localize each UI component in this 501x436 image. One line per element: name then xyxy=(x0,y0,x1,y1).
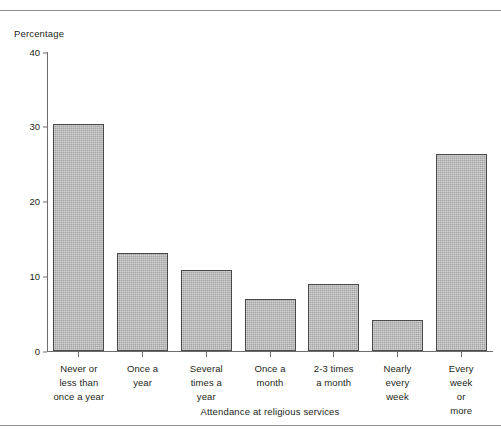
bar-slot xyxy=(47,52,111,351)
y-axis-tick-label: 0 xyxy=(35,346,40,356)
bar-slot xyxy=(238,52,302,351)
bar-slot xyxy=(174,52,238,351)
y-axis-tick: 30 xyxy=(7,126,47,127)
x-axis-tick-mark xyxy=(142,352,143,357)
x-axis-tick-mark xyxy=(78,352,79,357)
x-axis-title: Attendance at religious services xyxy=(47,406,493,417)
bottom-divider-rule xyxy=(0,425,501,426)
bar[interactable] xyxy=(117,253,168,351)
x-axis-tick xyxy=(429,352,493,357)
y-axis-tick: 20 xyxy=(7,201,47,202)
y-axis-tick-label: 10 xyxy=(29,272,40,282)
bar[interactable] xyxy=(53,124,104,351)
bar[interactable] xyxy=(372,320,423,351)
bar-chart-figure: Percentage 010203040 Never or less than … xyxy=(0,10,501,425)
y-axis-tick-mark xyxy=(43,127,47,128)
x-axis-tick xyxy=(111,352,175,357)
y-axis-tick: 10 xyxy=(7,276,47,277)
bar-slot xyxy=(302,52,366,351)
bar[interactable] xyxy=(245,299,296,351)
y-axis-tick-label: 40 xyxy=(29,47,40,57)
x-axis-tick-mark xyxy=(461,352,462,357)
y-axis-tick-label: 30 xyxy=(29,122,40,132)
bar-slot xyxy=(366,52,430,351)
x-axis-tick xyxy=(302,352,366,357)
x-axis-tick xyxy=(174,352,238,357)
x-axis-tick-mark xyxy=(333,352,334,357)
x-axis-tick xyxy=(366,352,430,357)
bar-slot xyxy=(429,52,493,351)
plot-area: 010203040 xyxy=(47,52,493,351)
x-axis-ticks xyxy=(47,352,493,357)
clipped-header-text xyxy=(0,0,501,3)
bar[interactable] xyxy=(181,270,232,351)
bar[interactable] xyxy=(308,284,359,351)
y-axis-tick-mark xyxy=(43,276,47,277)
x-axis-tick-mark xyxy=(270,352,271,357)
bar-slot xyxy=(111,52,175,351)
y-axis-title: Percentage xyxy=(14,28,64,39)
y-axis-tick: 40 xyxy=(7,52,47,53)
y-axis-tick-mark xyxy=(43,52,47,53)
x-axis-tick-mark xyxy=(206,352,207,357)
y-axis-tick-mark xyxy=(43,202,47,203)
y-axis-tick-label: 20 xyxy=(29,197,40,207)
bar[interactable] xyxy=(436,154,487,351)
x-axis-tick-mark xyxy=(397,352,398,357)
y-axis-tick: 0 xyxy=(7,351,47,352)
x-axis-tick xyxy=(238,352,302,357)
bar-series xyxy=(47,52,493,351)
x-axis-tick xyxy=(47,352,111,357)
